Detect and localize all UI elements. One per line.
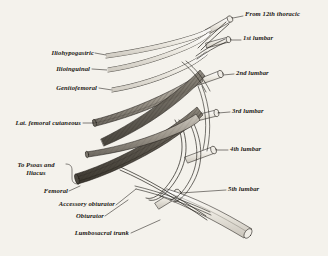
plexus-illustration	[0, 0, 328, 256]
lumbar-plexus-figure: From 12th thoracic 1st lumbar 2nd lumbar…	[0, 0, 328, 256]
label-lumbosacral-trunk: Lumbosacral trunk	[55, 229, 129, 237]
label-iliohypogastric: Iliohypogastric	[42, 49, 94, 57]
label-from-12th-thoracic: From 12th thoracic	[245, 10, 300, 18]
label-genitofemoral: Genitofemoral	[40, 84, 97, 92]
label-accessory-obturator: Accessory obturator	[40, 200, 115, 208]
label-obturator: Obturator	[55, 212, 104, 220]
label-4th-lumbar: 4th lumbar	[230, 145, 261, 153]
label-3rd-lumbar: 3rd lumbar	[232, 107, 264, 115]
label-1st-lumbar: 1st lumbar	[243, 34, 273, 42]
label-lat-femoral-cutaneous: Lat. femoral cutaneous	[8, 119, 81, 127]
label-2nd-lumbar: 2nd lumbar	[236, 69, 269, 77]
label-ilioinguinal: Ilioinguinal	[42, 65, 90, 73]
label-femoral: Femoral	[28, 187, 68, 195]
label-5th-lumbar: 5th lumbar	[228, 185, 259, 193]
label-to-psoas-and-iliacus: To Psoas and Iliacus	[9, 161, 63, 176]
